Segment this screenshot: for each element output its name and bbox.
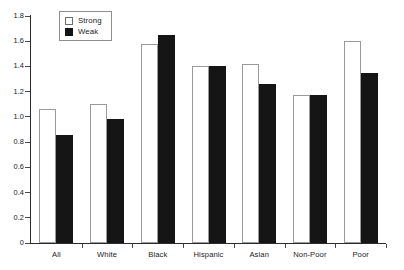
bar-all-weak <box>56 135 73 243</box>
x-tick-mark <box>386 244 387 248</box>
y-tick-label: 1.0 <box>0 113 24 120</box>
x-tick-mark <box>335 244 336 248</box>
filled-square-swatch <box>65 28 73 36</box>
y-tick-label: 1.8 <box>0 12 24 19</box>
x-label-poor: Poor <box>352 251 368 259</box>
y-tick-label: 0.2 <box>0 214 24 221</box>
legend-item-weak: Weak <box>65 26 102 37</box>
legend-item-strong: Strong <box>65 15 102 26</box>
bar-non-poor-strong <box>293 95 310 243</box>
x-axis-line <box>30 243 386 244</box>
bar-black-weak <box>158 35 175 243</box>
x-tick-mark <box>183 244 184 248</box>
bar-hispanic-strong <box>192 66 209 243</box>
y-tick-mark <box>25 192 30 193</box>
x-tick-mark <box>234 244 235 248</box>
legend-label-strong: Strong <box>78 17 102 25</box>
y-tick-mark <box>25 66 30 67</box>
x-label-white: White <box>97 251 117 259</box>
bar-chart: 00.20.40.60.81.01.21.41.61.8 AllWhiteBla… <box>0 0 404 270</box>
bar-white-strong <box>90 104 107 243</box>
y-tick-mark <box>25 167 30 168</box>
y-tick-mark <box>25 142 30 143</box>
x-tick-mark <box>132 244 133 248</box>
x-tick-mark <box>285 244 286 248</box>
x-label-asian: Asian <box>249 251 269 259</box>
y-tick-label: 0 <box>0 239 24 246</box>
y-tick-mark <box>25 41 30 42</box>
bar-asian-weak <box>259 84 276 243</box>
y-tick-label: 1.4 <box>0 62 24 69</box>
bar-hispanic-weak <box>209 66 226 243</box>
bar-poor-weak <box>361 73 378 243</box>
open-square-swatch <box>65 17 73 25</box>
bar-all-strong <box>39 109 56 243</box>
y-tick-label: 0.8 <box>0 138 24 145</box>
plot-area <box>31 16 386 243</box>
y-tick-label: 1.2 <box>0 88 24 95</box>
bar-non-poor-weak <box>310 95 327 243</box>
chart-legend: Strong Weak <box>59 11 112 41</box>
bar-white-weak <box>107 119 124 243</box>
y-tick-mark <box>25 217 30 218</box>
y-tick-label: 1.6 <box>0 37 24 44</box>
y-tick-mark <box>25 91 30 92</box>
y-tick-mark <box>25 16 30 17</box>
legend-label-weak: Weak <box>78 28 98 36</box>
x-label-hispanic: Hispanic <box>194 251 224 259</box>
y-tick-mark <box>25 243 30 244</box>
x-tick-mark <box>82 244 83 248</box>
x-label-black: Black <box>148 251 167 259</box>
x-label-non-poor: Non-Poor <box>293 251 326 259</box>
y-tick-label: 0.6 <box>0 163 24 170</box>
x-label-all: All <box>52 251 61 259</box>
y-tick-mark <box>25 116 30 117</box>
bar-poor-strong <box>344 41 361 243</box>
y-tick-label: 0.4 <box>0 189 24 196</box>
bar-black-strong <box>141 44 158 243</box>
bar-asian-strong <box>242 64 259 243</box>
